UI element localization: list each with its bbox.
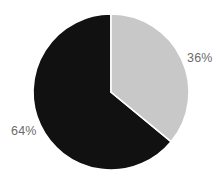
pie-chart: 36% 64%: [0, 0, 221, 183]
pie-label-light-slice: 36%: [187, 52, 213, 65]
pie-chart-canvas: [0, 0, 221, 183]
pie-label-dark-slice: 64%: [11, 125, 37, 138]
pie-slices: [33, 14, 189, 170]
